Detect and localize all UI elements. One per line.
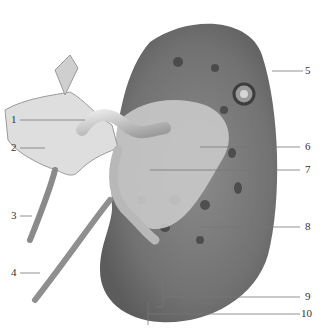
label-7: 7 — [305, 164, 311, 175]
label-10: 10 — [301, 308, 312, 319]
ureter-upper — [30, 170, 55, 240]
label-6: 6 — [305, 141, 311, 152]
kidney-illustration — [0, 0, 323, 334]
label-3: 3 — [11, 210, 17, 221]
label-2: 2 — [11, 142, 17, 153]
ureter-lower — [35, 200, 110, 300]
label-9: 9 — [305, 291, 311, 302]
renal-pelvis — [5, 92, 118, 175]
label-5: 5 — [305, 65, 311, 76]
label-8: 8 — [305, 221, 311, 232]
label-1: 1 — [11, 114, 17, 125]
label-4: 4 — [11, 267, 17, 278]
